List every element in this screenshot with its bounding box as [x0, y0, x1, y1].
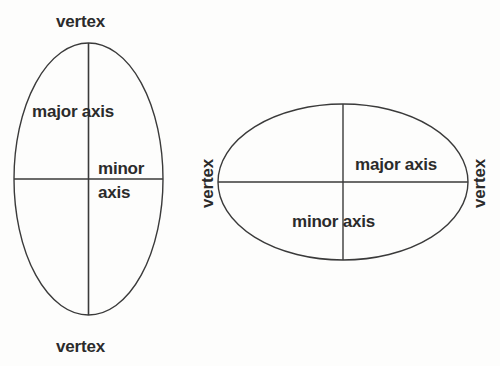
vertical-ellipse-group [14, 43, 163, 315]
right-ellipse-minor-axis-label: minor axis [292, 213, 375, 230]
left-ellipse-minor-axis-label-line1: minor [98, 160, 144, 177]
horizontal-ellipse-group [218, 104, 468, 260]
left-ellipse-vertex-bottom-label: vertex [56, 338, 105, 355]
right-ellipse-major-axis-label: major axis [355, 156, 437, 173]
left-ellipse-major-axis-label: major axis [32, 103, 114, 120]
diagram-canvas: vertex major axis minor axis vertex vert… [0, 0, 500, 366]
ellipse-figure [0, 0, 500, 366]
right-ellipse-vertex-right-label: vertex [471, 155, 488, 213]
right-ellipse-vertex-left-label: vertex [199, 155, 216, 213]
left-ellipse-vertex-top-label: vertex [56, 13, 105, 30]
left-ellipse-minor-axis-label-line2: axis [98, 184, 130, 201]
